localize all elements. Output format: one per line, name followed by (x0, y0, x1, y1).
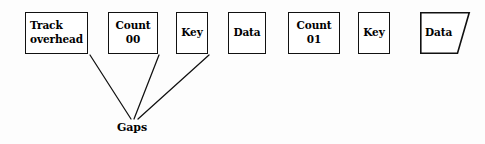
connector-line-count-00-to-gaps (134, 55, 159, 119)
box-count-01-line-1: Count (297, 19, 332, 33)
box-key-2: Key (358, 12, 390, 54)
box-key-2-line-1: Key (363, 26, 384, 40)
box-data-1-line-1: Data (233, 26, 260, 40)
box-key-1: Key (176, 12, 208, 54)
box-key-1-line-1: Key (181, 26, 202, 40)
box-data-2-label: Data (420, 12, 470, 54)
box-count-01-line-2: 01 (307, 33, 321, 47)
gaps-caption: Gaps (117, 121, 147, 134)
box-track-overhead: Track overhead (25, 12, 88, 54)
connector-line-key-1-to-gaps (138, 55, 209, 119)
box-data-2-continued: Data (420, 12, 470, 54)
box-count-00-line-2: 00 (126, 33, 140, 47)
box-count-00: Count 00 (108, 12, 158, 54)
box-track-overhead-line-1: Track (30, 19, 63, 33)
connector-line-track-overhead-to-gaps (90, 55, 131, 119)
box-track-overhead-line-2: overhead (30, 33, 83, 47)
box-count-01: Count 01 (288, 12, 340, 54)
box-data-1: Data (228, 12, 266, 54)
box-count-00-line-1: Count (116, 19, 151, 33)
track-format-diagram: Track overhead Count 00 Key Data Count 0… (0, 0, 485, 144)
